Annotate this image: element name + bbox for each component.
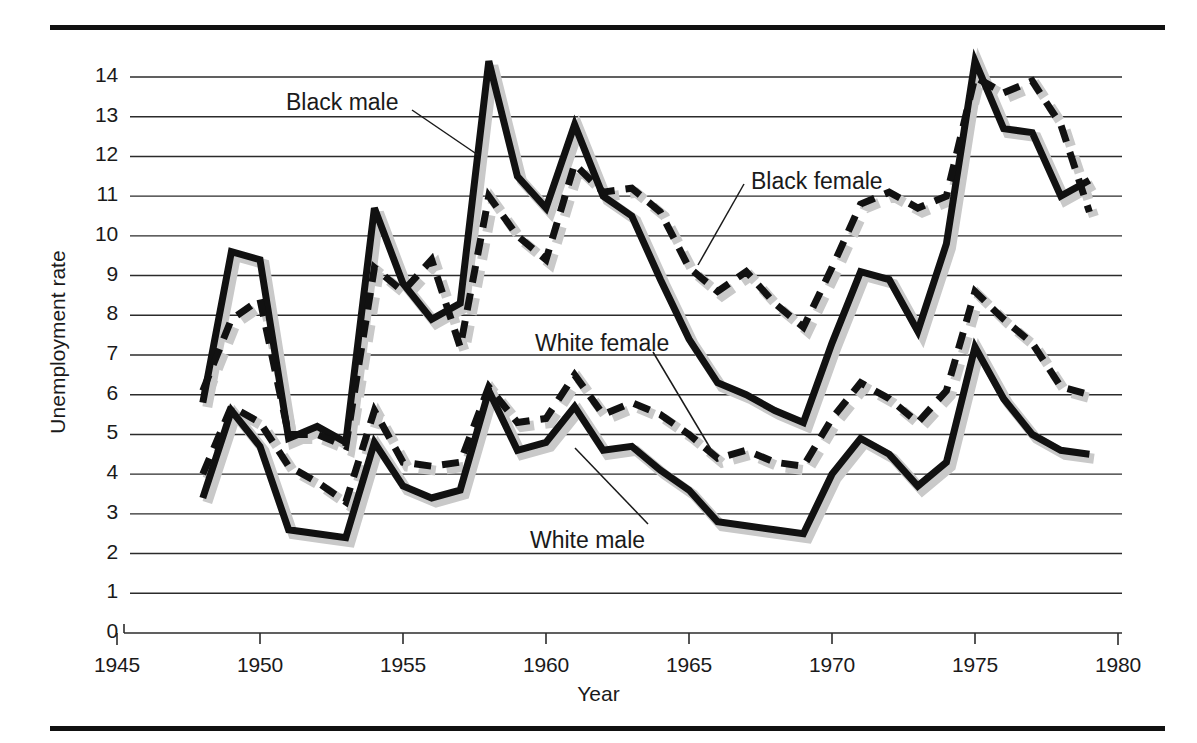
y-tick-label-0: 0 [78, 619, 118, 643]
y-tick-label-2: 2 [78, 540, 118, 564]
y-tick-label-1: 1 [78, 579, 118, 603]
y-tick-label-3: 3 [78, 500, 118, 524]
x-tick-label-1965: 1965 [644, 653, 734, 677]
series-annotation-white-male: White male [530, 527, 645, 554]
x-tick-label-1955: 1955 [358, 653, 448, 677]
y-tick-label-11: 11 [78, 182, 118, 206]
y-tick-label-10: 10 [78, 222, 118, 246]
leader-line-3 [575, 448, 648, 524]
x-tick-label-1950: 1950 [215, 653, 305, 677]
x-tick-label-1970: 1970 [787, 653, 877, 677]
series-line-white-female [203, 291, 1090, 501]
series-annotation-black-male: Black male [286, 89, 398, 116]
x-axis-tick-marks [117, 633, 1118, 645]
series-annotation-black-female: Black female [751, 168, 883, 195]
x-tick-label-1980: 1980 [1073, 653, 1163, 677]
y-tick-label-13: 13 [78, 103, 118, 127]
y-tick-label-9: 9 [78, 262, 118, 286]
y-tick-label-5: 5 [78, 420, 118, 444]
y-tick-label-12: 12 [78, 142, 118, 166]
x-tick-label-1960: 1960 [501, 653, 591, 677]
axis-lines [124, 624, 1122, 633]
series-line-layer [203, 61, 1090, 538]
y-tick-label-8: 8 [78, 301, 118, 325]
x-tick-label-1945: 1945 [72, 653, 162, 677]
y-tick-label-14: 14 [78, 63, 118, 87]
y-tick-label-6: 6 [78, 381, 118, 405]
figure-container: Unemployment rate Year 01234567891011121… [0, 0, 1197, 743]
y-tick-label-7: 7 [78, 341, 118, 365]
y-tick-label-4: 4 [78, 460, 118, 484]
series-line-black-female [203, 77, 1090, 446]
series-annotation-white-female: White female [535, 330, 669, 357]
x-tick-label-1975: 1975 [930, 653, 1020, 677]
chart-plot-area [0, 0, 1197, 743]
series-line-black-male [203, 61, 1090, 442]
